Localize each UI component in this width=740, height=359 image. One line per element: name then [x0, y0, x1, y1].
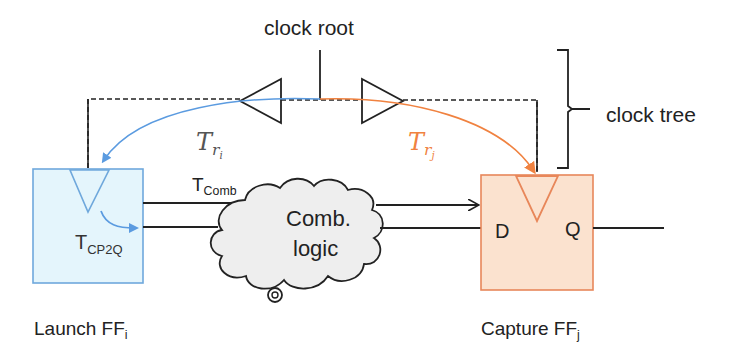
- launch-ff-base: Launch FF: [34, 318, 125, 339]
- comb-logic-label-line1: Comb.: [286, 206, 351, 232]
- capture-q-pin-label: Q: [565, 218, 581, 241]
- t-comb-sub: Comb: [204, 184, 237, 198]
- t-rj-label: Trj: [408, 128, 435, 161]
- clock-tree-label: clock tree: [606, 103, 696, 127]
- t-cp2q-sub: CP2Q: [87, 242, 122, 257]
- t-comb-base: T: [192, 174, 204, 195]
- capture-d-pin-label: D: [495, 220, 509, 243]
- capture-ff-label: Capture FFj: [481, 318, 580, 342]
- t-cp2q-base: T: [75, 231, 87, 253]
- t-rj-base: T: [408, 128, 424, 156]
- clock-root-label: clock root: [264, 16, 354, 40]
- capture-ff-sub: j: [577, 328, 580, 342]
- t-cp2q-label: TCP2Q: [75, 231, 123, 257]
- comb-logic-label-line2: logic: [293, 236, 338, 262]
- clock-skew-diagram: [0, 0, 740, 359]
- capture-ff-base: Capture FF: [481, 318, 577, 339]
- clock-tree-bracket: [557, 50, 590, 168]
- t-rj-sub: rj: [424, 141, 435, 159]
- t-comb-label: TComb: [192, 174, 237, 198]
- launch-ff-sub: i: [125, 328, 128, 342]
- launch-ff-label: Launch FFi: [34, 318, 128, 342]
- t-ri-label: Tri: [196, 128, 223, 161]
- t-ri-base: T: [196, 128, 212, 156]
- clock-tree-wires: [88, 99, 537, 172]
- cloud-tail-circle-inner: [272, 292, 278, 298]
- cloud-tail-circle: [268, 288, 282, 302]
- t-ri-sub: ri: [212, 141, 223, 159]
- launch-ff-box: [33, 169, 143, 283]
